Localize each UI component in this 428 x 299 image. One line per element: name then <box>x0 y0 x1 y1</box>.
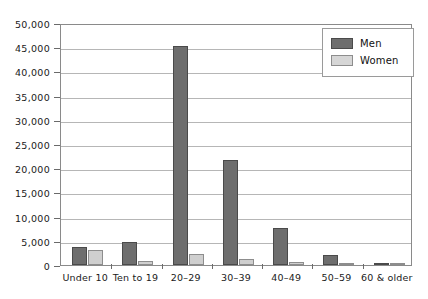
y-tick-label: 45,000 <box>0 43 50 54</box>
bar-men <box>223 160 238 266</box>
bar-men <box>173 46 188 265</box>
women-swatch-icon <box>331 55 353 66</box>
bar-women <box>88 250 103 265</box>
y-tick-label: 25,000 <box>0 140 50 151</box>
bar-men <box>72 247 87 265</box>
x-tick-label: 50–59 <box>322 272 352 283</box>
x-tick-label: 60 & older <box>361 272 413 283</box>
y-tick-label: 5,000 <box>0 236 50 247</box>
y-tick-mark <box>54 266 60 267</box>
legend-item-women: Women <box>331 52 405 69</box>
x-tick-label: 30–39 <box>221 272 251 283</box>
bar-group <box>111 25 161 265</box>
bar-men <box>323 255 338 265</box>
y-tick-label: 35,000 <box>0 91 50 102</box>
legend-label-women: Women <box>360 55 399 66</box>
legend-label-men: Men <box>360 38 382 49</box>
x-tick-label: Under 10 <box>62 272 107 283</box>
cropped-text-remnant <box>0 0 428 6</box>
bar-chart: 05,00010,00015,00020,00025,00030,00035,0… <box>0 0 428 299</box>
bar-group <box>212 25 262 265</box>
y-tick-label: 50,000 <box>0 19 50 30</box>
legend: Men Women <box>322 28 414 77</box>
x-axis: Under 10Ten to 1920–2930–3940–4950–5960 … <box>60 272 412 292</box>
bar-group <box>162 25 212 265</box>
y-tick-label: 15,000 <box>0 188 50 199</box>
bar-women <box>289 262 304 265</box>
y-tick-label: 10,000 <box>0 212 50 223</box>
bar-group <box>262 25 312 265</box>
bar-women <box>189 254 204 265</box>
x-tick-label: Ten to 19 <box>113 272 159 283</box>
y-tick-label: 20,000 <box>0 164 50 175</box>
legend-item-men: Men <box>331 35 405 52</box>
bar-women <box>239 259 254 265</box>
bar-men <box>122 242 137 265</box>
bar-women <box>390 263 405 265</box>
y-tick-label: 0 <box>0 261 50 272</box>
bar-men <box>273 228 288 265</box>
bar-men <box>374 263 389 265</box>
y-tick-label: 40,000 <box>0 67 50 78</box>
bar-women <box>339 263 354 265</box>
men-swatch-icon <box>331 38 353 49</box>
y-tick-label: 30,000 <box>0 115 50 126</box>
bar-women <box>138 261 153 265</box>
x-tick-label: 20–29 <box>171 272 201 283</box>
bar-group <box>61 25 111 265</box>
x-tick-label: 40–49 <box>271 272 301 283</box>
